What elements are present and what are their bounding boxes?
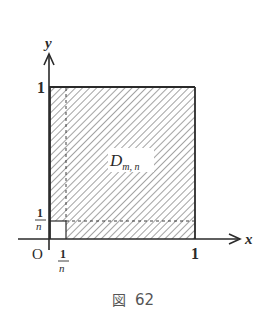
origin-label: O [32, 246, 43, 262]
x-tick-frac-den: n [59, 262, 65, 274]
x-tick-frac-num: 1 [60, 247, 66, 261]
y-tick-frac-num: 1 [37, 206, 43, 220]
diagram-canvas: y x O 1 1 1 n 1 n Dm, n 図 62 [0, 0, 271, 324]
figure-caption-number: 62 [135, 291, 154, 309]
y-tick-frac-den: n [36, 220, 42, 232]
x-axis-label: x [244, 231, 253, 247]
y-axis-label: y [43, 35, 52, 51]
y-tick-one: 1 [37, 79, 45, 96]
region-label-main: D [109, 151, 123, 170]
x-tick-one: 1 [191, 245, 199, 262]
region-label-subscript: m, n [122, 161, 139, 172]
figure-caption-kanji: 図 [112, 292, 126, 308]
